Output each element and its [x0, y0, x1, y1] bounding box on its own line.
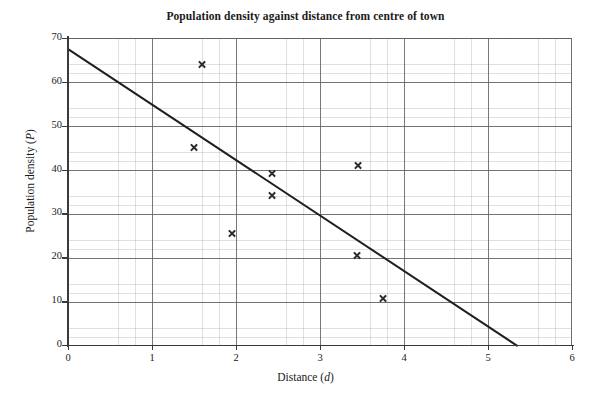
y-tick-mark	[62, 38, 67, 39]
y-tick-mark	[62, 257, 67, 258]
y-tick-label: 40	[34, 163, 62, 174]
y-tick-label: 30	[34, 206, 62, 217]
chart-container: Population density against distance from…	[0, 0, 611, 405]
y-tick-mark	[62, 126, 67, 127]
y-tick-mark	[62, 213, 67, 214]
y-tick-mark	[62, 82, 67, 83]
data-point	[352, 251, 361, 260]
x-tick-label: 6	[560, 352, 584, 363]
y-axis-line	[67, 36, 69, 347]
x-tick-mark	[236, 345, 237, 350]
x-tick-mark	[68, 345, 69, 350]
data-point	[268, 169, 277, 178]
x-tick-mark	[320, 345, 321, 350]
chart-title: Population density against distance from…	[0, 10, 611, 22]
x-tick-mark	[572, 345, 573, 350]
x-tick-mark	[152, 345, 153, 350]
data-point	[227, 229, 236, 238]
x-axis-title-symbol: d	[324, 371, 330, 383]
data-point	[268, 191, 277, 200]
y-axis-title-symbol: P	[24, 133, 36, 140]
x-axis-title: Distance (d)	[0, 371, 611, 383]
data-point	[190, 143, 199, 152]
y-tick-mark	[62, 301, 67, 302]
data-point	[198, 60, 207, 69]
y-tick-mark	[62, 345, 67, 346]
x-tick-label: 2	[224, 352, 248, 363]
x-tick-mark	[488, 345, 489, 350]
x-axis-title-text: Distance	[277, 371, 317, 383]
y-tick-label: 20	[34, 250, 62, 261]
x-tick-label: 0	[56, 352, 80, 363]
x-tick-label: 3	[308, 352, 332, 363]
x-tick-label: 4	[392, 352, 416, 363]
plot-area	[68, 38, 572, 345]
y-tick-label: 50	[34, 119, 62, 130]
y-tick-label: 70	[34, 31, 62, 42]
y-tick-mark	[62, 170, 67, 171]
x-tick-label: 1	[140, 352, 164, 363]
y-tick-label: 10	[34, 294, 62, 305]
y-axis-title: Population density (P)	[24, 61, 36, 301]
y-axis-title-text: Population density	[24, 147, 36, 233]
y-tick-label: 0	[34, 338, 62, 349]
y-tick-label: 60	[34, 75, 62, 86]
x-tick-label: 5	[476, 352, 500, 363]
x-tick-mark	[404, 345, 405, 350]
data-point-layer	[68, 38, 572, 345]
data-point	[379, 294, 388, 303]
data-point	[353, 161, 362, 170]
